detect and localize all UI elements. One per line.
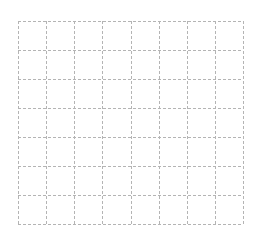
dashed-grid bbox=[0, 0, 261, 244]
